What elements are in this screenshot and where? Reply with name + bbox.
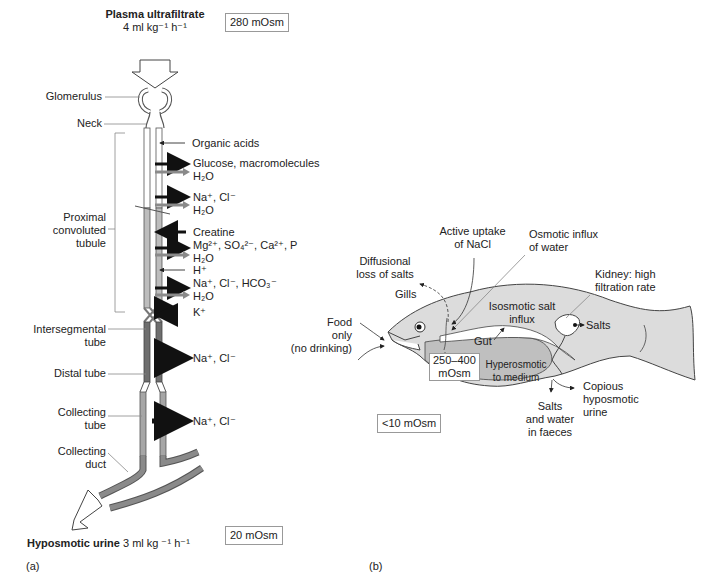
label-collecting-duct-2: duct [10,458,106,471]
label-diffusional-2: loss of salts [345,268,425,281]
label-intersegmental-2: tube [10,336,106,349]
label-salts-kidney: Salts [586,319,610,332]
transport-na-cl-hco3: Na⁺, Cl⁻, HCO₃⁻ [193,277,277,290]
label-osmotic-influx-2: of water [529,241,568,254]
intersegmental-tube [144,308,162,322]
transport-glucose: Glucose, macromolecules [193,157,320,170]
label-food-1: Food [300,316,352,329]
internal-osmolarity-box: 250–400 mOsm [429,353,480,381]
label-food-3: (no drinking) [270,342,352,355]
label-kidney-1: Kidney: high [595,268,656,281]
label-hyperosmotic-1: Hyperosmotic [476,358,556,371]
transport-nacl-1: Na⁺, Cl⁻ [193,191,236,204]
transport-h2o-1: H₂O [193,170,214,183]
transport-h2o-2: H₂O [193,204,214,217]
output-arrow-icon [72,490,102,530]
input-rate: 4 ml kg⁻¹ h⁻¹ [100,21,210,34]
input-title: Plasma ultrafiltrate [100,8,210,21]
transport-h-plus: H⁺ [193,264,207,277]
transport-h2o-4: H₂O [193,290,214,303]
label-active-uptake-2: of NaCl [430,238,515,251]
label-proximal-3: tubule [20,237,106,250]
distal-tube [144,322,150,382]
label-diffusional-1: Diffusional [345,255,425,268]
label-kidney-2: filtration rate [595,281,656,294]
label-gut: Gut [474,335,492,348]
caption-b: (b) [369,560,382,573]
label-collecting-duct-1: Collecting [10,445,106,458]
label-copious-2: hyposmotic [583,393,639,406]
label-copious-1: Copious [583,380,623,393]
label-neck: Neck [20,117,102,130]
label-active-uptake-1: Active uptake [430,225,515,238]
label-collecting-tube-2: tube [10,419,106,432]
output-rate: 3 ml kg ⁻¹ h⁻¹ [123,537,190,549]
transport-creatine: Creatine [193,226,235,239]
output-osmolarity-box: 20 mOsm [225,526,283,545]
internal-osm-value: 250–400 [433,354,476,367]
label-glomerulus: Glomerulus [20,90,102,103]
label-osmotic-influx-1: Osmotic influx [529,228,598,241]
label-food-2: only [300,329,352,342]
label-isosmotic-2: influx [482,313,562,326]
proximal-tube [144,208,150,308]
label-distal: Distal tube [10,367,106,380]
label-faeces-1: Salts [510,400,590,413]
transport-nacl-collecting: Na⁺, Cl⁻ [193,415,236,428]
label-proximal-2: convoluted [20,224,106,237]
transport-k-plus: K⁺ [193,306,206,319]
label-collecting-tube-1: Collecting [10,406,106,419]
output-title: Hyposmotic urine [27,537,120,549]
label-gills: Gills [395,288,416,301]
collecting-tube [140,392,146,456]
label-faeces-2: and water [510,413,590,426]
transport-mg-so4-ca-p: Mg²⁺, SO₄²⁻, Ca²⁺, P [193,239,297,252]
label-faeces-3: in faeces [510,426,590,439]
internal-osm-unit: mOsm [433,367,476,380]
caption-a: (a) [26,560,39,573]
label-isosmotic-1: Isosmotic salt [482,300,562,313]
label-proximal-1: Proximal [20,211,106,224]
label-hyperosmotic-2: to medium [476,371,556,384]
input-osmolarity-box: 280 mOsm [225,13,289,32]
medium-osmolarity-box: <10 mOsm [377,414,441,433]
transport-nacl-distal: Na⁺, Cl⁻ [193,352,236,365]
label-intersegmental-1: Intersegmental [10,323,106,336]
output-label: Hyposmotic urine 3 ml kg ⁻¹ h⁻¹ [27,537,190,550]
transport-organic-acids: Organic acids [192,137,259,150]
input-arrow-icon [132,60,178,88]
